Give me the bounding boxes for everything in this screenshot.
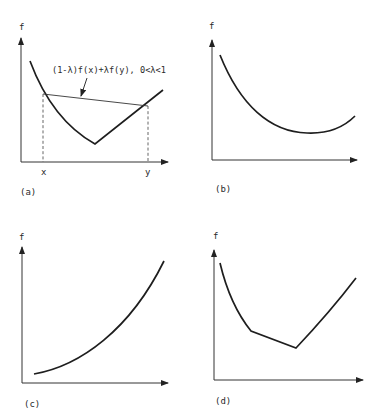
panel-a-x-tick: x: [41, 167, 47, 177]
panel-a: f (1-λ)f(x)+λf(y), 0<λ<1 x y (a): [19, 22, 168, 197]
panel-a-caption: (a): [20, 187, 36, 197]
panel-c-caption: (c): [24, 399, 40, 409]
panel-d-curve: [220, 263, 356, 348]
panel-a-annotation: (1-λ)f(x)+λf(y), 0<λ<1: [52, 65, 166, 75]
panel-c-y-label: f: [19, 232, 24, 242]
panel-c-curve: [34, 261, 164, 374]
panel-b-curve: [220, 55, 355, 133]
panel-a-annotation-arrow: [81, 78, 87, 96]
panel-b-y-label: f: [209, 21, 214, 31]
panel-a-chord: [43, 94, 148, 106]
panel-d: f (d): [213, 231, 363, 406]
panel-a-y-tick: y: [145, 167, 151, 177]
panel-a-y-label: f: [19, 22, 24, 32]
convex-functions-figure: f (1-λ)f(x)+λf(y), 0<λ<1 x y (a) f (b) f…: [0, 0, 379, 418]
panel-c: f (c): [19, 232, 168, 409]
panel-b: f (b): [209, 21, 357, 194]
panel-d-y-label: f: [213, 231, 218, 241]
panel-b-caption: (b): [215, 184, 231, 194]
panel-d-caption: (d): [215, 396, 231, 406]
